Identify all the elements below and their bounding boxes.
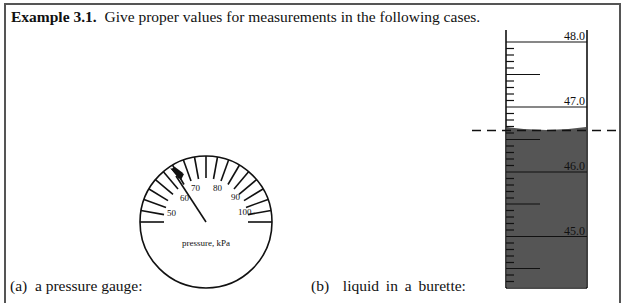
gauge-unit-label: pressure, kPa: [182, 238, 230, 248]
gauge-label-90: 90: [231, 192, 241, 202]
case-a-caption: (a) a pressure gauge:: [10, 277, 143, 295]
burette-label-48: 48.0: [564, 29, 585, 43]
gauge-label-80: 80: [213, 183, 223, 193]
case-b-caption: (b) liquid in a burette:: [311, 277, 466, 295]
burette: 48.0 47.0 46.0 45.0: [472, 29, 618, 288]
burette-label-47: 47.0: [564, 94, 585, 108]
case-a-text: a pressure gauge:: [35, 277, 143, 294]
burette-liquid: [507, 127, 586, 287]
gauge-label-50: 50: [167, 208, 177, 218]
gauge-label-100: 100: [238, 207, 252, 217]
burette-label-46: 46.0: [564, 159, 585, 173]
gauge-label-70: 70: [191, 183, 201, 193]
case-b-marker: (b): [311, 277, 329, 294]
case-b-text: liquid in a burette:: [343, 277, 466, 294]
case-a-marker: (a): [10, 277, 27, 294]
burette-label-45: 45.0: [564, 224, 585, 238]
